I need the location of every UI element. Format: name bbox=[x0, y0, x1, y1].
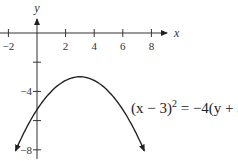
left-arrow-icon bbox=[16, 144, 19, 150]
parabola-curve bbox=[16, 77, 145, 151]
x-tick-label: 2 bbox=[63, 40, 69, 52]
y-tick-label: −4 bbox=[20, 85, 32, 97]
parabola-graph: −22468−4−8xy bbox=[0, 0, 238, 161]
x-tick-label: 8 bbox=[149, 40, 155, 52]
x-tick-label: 4 bbox=[91, 40, 97, 52]
y-tick-label: −8 bbox=[20, 144, 32, 156]
y-axis-label: y bbox=[33, 1, 40, 15]
equation-label: (x − 3)2 = −4(y + 3) bbox=[131, 98, 238, 117]
x-tick-label: −2 bbox=[3, 40, 15, 52]
x-axis-label: x bbox=[173, 26, 180, 40]
right-arrow-icon bbox=[141, 144, 144, 150]
x-tick-label: 6 bbox=[120, 40, 126, 52]
